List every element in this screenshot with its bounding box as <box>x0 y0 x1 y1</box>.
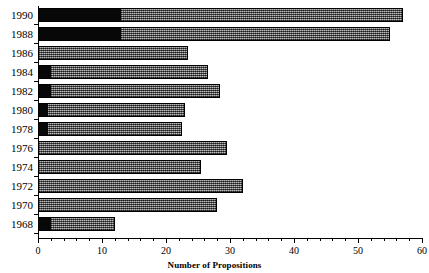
x-axis-title: Number of Propositions <box>0 260 429 270</box>
bar-segment-black <box>38 217 51 231</box>
y-axis-tick-label: 1980 <box>0 104 33 116</box>
x-axis-minor-tick <box>217 238 218 241</box>
bar-segment-black <box>38 122 48 136</box>
y-axis-tick-label: 1974 <box>0 161 33 173</box>
x-axis-minor-tick <box>243 238 244 241</box>
bar-segment-hatched <box>38 198 217 212</box>
x-axis-minor-tick <box>64 238 65 241</box>
x-axis-minor-tick <box>332 238 333 241</box>
x-axis-minor-tick <box>51 238 52 241</box>
bar-segment-hatched <box>38 65 208 79</box>
x-axis-minor-tick <box>128 238 129 241</box>
x-axis-minor-tick <box>179 238 180 241</box>
bar-segment-hatched <box>38 160 201 174</box>
x-axis-minor-tick <box>371 238 372 241</box>
bar-segment-hatched <box>38 122 182 136</box>
bar-row <box>38 27 390 41</box>
x-axis-minor-tick <box>409 238 410 241</box>
bar-row <box>38 217 115 231</box>
x-axis-minor-tick <box>153 238 154 241</box>
x-axis-major-tick <box>102 238 103 243</box>
x-axis-major-tick <box>294 238 295 243</box>
bar-row <box>38 8 403 22</box>
x-axis-minor-tick <box>345 238 346 241</box>
y-axis-tick-label: 1972 <box>0 180 33 192</box>
bar-row <box>38 198 217 212</box>
x-axis-tick-label: 20 <box>154 245 178 256</box>
x-axis-major-tick <box>38 238 39 243</box>
bar-row <box>38 141 227 155</box>
bar-row <box>38 160 201 174</box>
x-axis-tick-label: 30 <box>218 245 242 256</box>
x-axis-minor-tick <box>307 238 308 241</box>
x-axis-minor-tick <box>320 238 321 241</box>
bar-segment-black <box>38 65 51 79</box>
x-axis-major-tick <box>358 238 359 243</box>
bar-segment-hatched <box>38 179 243 193</box>
y-axis-tick-label: 1986 <box>0 47 33 59</box>
bar-segment-hatched <box>38 46 188 60</box>
y-axis-tick-label: 1990 <box>0 9 33 21</box>
x-axis-tick-label: 60 <box>410 245 429 256</box>
bar-row <box>38 84 220 98</box>
x-axis-major-tick <box>422 238 423 243</box>
bar-segment-black <box>38 8 121 22</box>
x-axis-minor-tick <box>115 238 116 241</box>
y-axis-tick-label: 1982 <box>0 85 33 97</box>
bar-segment-hatched <box>38 84 220 98</box>
bar-segment-hatched <box>38 141 227 155</box>
bar-row <box>38 103 185 117</box>
y-axis-tick-label: 1988 <box>0 28 33 40</box>
x-axis-tick-label: 10 <box>90 245 114 256</box>
bar-segment-black <box>38 27 121 41</box>
x-axis-minor-tick <box>140 238 141 241</box>
y-axis-tick-label: 1984 <box>0 66 33 78</box>
bar-segment-black <box>38 103 48 117</box>
x-axis-major-tick <box>230 238 231 243</box>
x-axis-tick-label: 50 <box>346 245 370 256</box>
bar-segment-black <box>38 84 51 98</box>
bar-chart: 1990198819861984198219801978197619741972… <box>0 0 429 273</box>
bar-row <box>38 46 188 60</box>
bar-row <box>38 179 243 193</box>
x-axis-tick-label: 40 <box>282 245 306 256</box>
x-axis-minor-tick <box>76 238 77 241</box>
bar-row <box>38 65 208 79</box>
y-axis-tick-label: 1978 <box>0 123 33 135</box>
y-axis-tick-label: 1968 <box>0 218 33 230</box>
bars-container <box>38 8 422 236</box>
bar-segment-hatched <box>38 103 185 117</box>
x-axis-minor-tick <box>384 238 385 241</box>
x-axis-major-tick <box>166 238 167 243</box>
x-axis-minor-tick <box>256 238 257 241</box>
x-axis-minor-tick <box>204 238 205 241</box>
x-axis-minor-tick <box>192 238 193 241</box>
bar-row <box>38 122 182 136</box>
x-axis-minor-tick <box>281 238 282 241</box>
x-axis-minor-tick <box>89 238 90 241</box>
x-axis-minor-tick <box>268 238 269 241</box>
y-axis-tick-label: 1976 <box>0 142 33 154</box>
y-axis-tick-label: 1970 <box>0 199 33 211</box>
x-axis-tick-label: 0 <box>26 245 50 256</box>
x-axis-minor-tick <box>396 238 397 241</box>
